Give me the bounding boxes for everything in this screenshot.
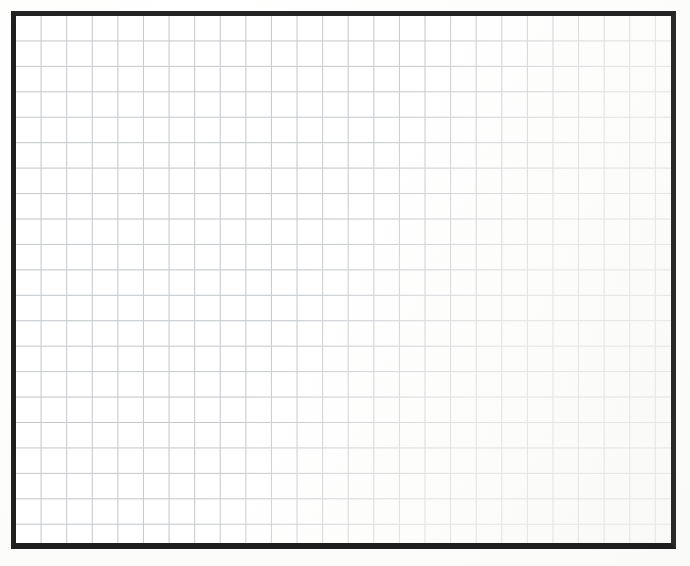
frame-bottom-ink-variation [16,543,671,549]
grid-border-frame [11,11,676,549]
grid-lines-surface [16,16,671,543]
grid-sheet-page [0,0,690,566]
